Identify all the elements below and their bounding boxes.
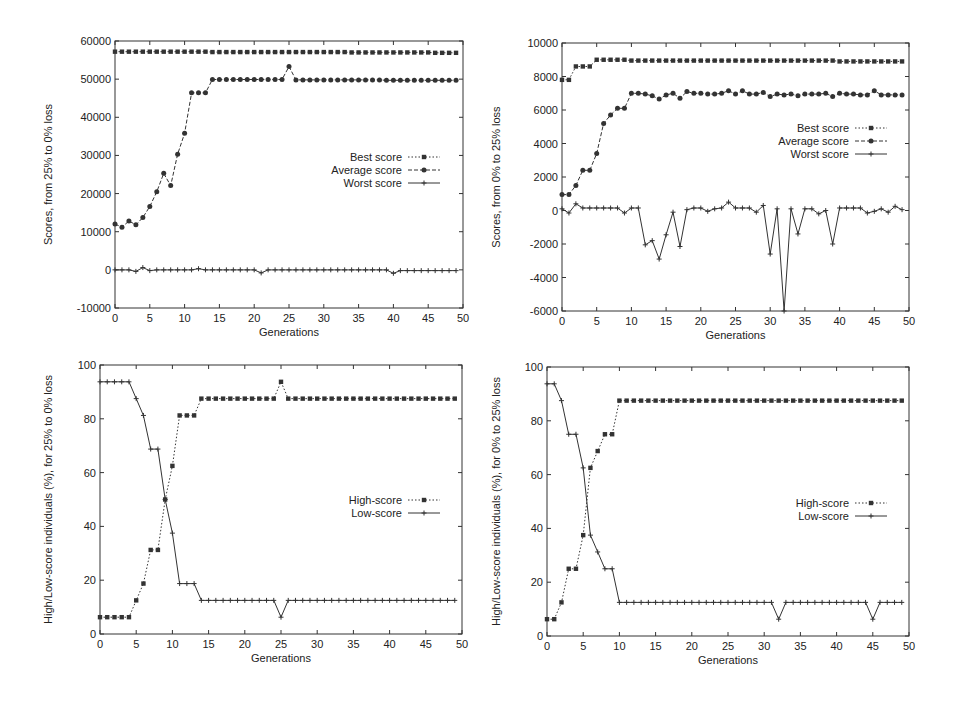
x-tick-label: 50: [903, 640, 915, 652]
square-marker-icon: [617, 398, 621, 402]
square-marker-icon: [869, 501, 873, 505]
square-marker-icon: [762, 398, 766, 402]
square-marker-icon: [559, 600, 563, 604]
y-tick-label: 20: [531, 576, 543, 588]
square-marker-icon: [849, 398, 853, 402]
square-marker-icon: [863, 398, 867, 402]
square-marker-icon: [690, 398, 694, 402]
square-marker-icon: [892, 398, 896, 402]
square-marker-icon: [595, 449, 599, 453]
square-marker-icon: [697, 398, 701, 402]
square-marker-icon: [682, 398, 686, 402]
square-marker-icon: [871, 398, 875, 402]
square-marker-icon: [668, 398, 672, 402]
square-marker-icon: [675, 398, 679, 402]
series-high-score: [545, 398, 904, 621]
legend-entry: High-score: [796, 497, 887, 509]
y-tick-label: 100: [525, 361, 543, 373]
square-marker-icon: [733, 398, 737, 402]
square-marker-icon: [813, 398, 817, 402]
square-marker-icon: [624, 398, 628, 402]
series-low-score: [545, 381, 905, 621]
square-marker-icon: [632, 398, 636, 402]
square-marker-icon: [581, 533, 585, 537]
square-marker-icon: [755, 398, 759, 402]
y-tick-label: 60: [531, 469, 543, 481]
x-tick-label: 10: [613, 640, 625, 652]
square-marker-icon: [719, 398, 723, 402]
square-marker-icon: [856, 398, 860, 402]
square-marker-icon: [878, 398, 882, 402]
square-marker-icon: [726, 398, 730, 402]
legend-entry: Low-score: [798, 510, 887, 522]
square-marker-icon: [574, 567, 578, 571]
square-marker-icon: [711, 398, 715, 402]
square-marker-icon: [834, 398, 838, 402]
square-marker-icon: [639, 398, 643, 402]
x-tick-label: 5: [580, 640, 586, 652]
square-marker-icon: [805, 398, 809, 402]
y-tick-label: 80: [531, 415, 543, 427]
square-marker-icon: [776, 398, 780, 402]
x-tick-label: 15: [649, 640, 661, 652]
x-axis-title: Generations: [698, 654, 758, 666]
square-marker-icon: [885, 398, 889, 402]
legend-label: High-score: [796, 497, 849, 509]
chart-svg: 05101520253035404550020406080100Generati…: [0, 0, 954, 705]
square-marker-icon: [661, 398, 665, 402]
square-marker-icon: [545, 617, 549, 621]
x-tick-label: 25: [722, 640, 734, 652]
square-marker-icon: [900, 398, 904, 402]
x-tick-label: 45: [867, 640, 879, 652]
square-marker-icon: [769, 398, 773, 402]
square-marker-icon: [704, 398, 708, 402]
y-tick-label: 0: [537, 630, 543, 642]
square-marker-icon: [646, 398, 650, 402]
square-marker-icon: [842, 398, 846, 402]
legend-label: Low-score: [798, 510, 849, 522]
square-marker-icon: [653, 398, 657, 402]
x-tick-label: 0: [544, 640, 550, 652]
square-marker-icon: [791, 398, 795, 402]
square-marker-icon: [588, 466, 592, 470]
square-marker-icon: [748, 398, 752, 402]
square-marker-icon: [567, 567, 571, 571]
plot-frame: [547, 367, 909, 636]
y-axis-title: High/Low-score individuals (%), for 0% t…: [490, 377, 502, 626]
y-tick-label: 40: [531, 522, 543, 534]
x-tick-label: 20: [686, 640, 698, 652]
x-tick-label: 30: [758, 640, 770, 652]
square-marker-icon: [798, 398, 802, 402]
x-tick-label: 40: [830, 640, 842, 652]
square-marker-icon: [820, 398, 824, 402]
square-marker-icon: [603, 432, 607, 436]
square-marker-icon: [610, 432, 614, 436]
square-marker-icon: [784, 398, 788, 402]
square-marker-icon: [740, 398, 744, 402]
x-tick-label: 35: [794, 640, 806, 652]
square-marker-icon: [827, 398, 831, 402]
chart-bottom-right: 05101520253035404550020406080100Generati…: [0, 0, 954, 705]
square-marker-icon: [552, 617, 556, 621]
